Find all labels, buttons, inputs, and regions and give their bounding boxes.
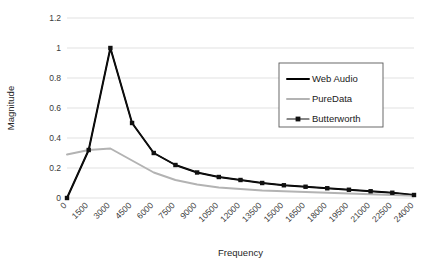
x-tick-label-12: 18000 — [305, 200, 329, 224]
y-tick-label-3: 0.6 — [49, 103, 61, 113]
series-marker-butterworth-16 — [412, 193, 416, 197]
x-tick-label-14: 21000 — [348, 200, 372, 224]
series-marker-butterworth-7 — [217, 175, 221, 179]
y-tick-label-6: 1.2 — [49, 13, 61, 23]
series-marker-butterworth-10 — [282, 183, 286, 187]
legend-label-web-audio[interactable]: Web Audio — [312, 73, 358, 84]
series-marker-butterworth-15 — [390, 191, 394, 195]
y-tick-label-1: 0.2 — [49, 163, 61, 173]
series-marker-butterworth-2 — [108, 46, 112, 50]
y-tick-label-5: 1 — [56, 43, 61, 53]
series-marker-butterworth-11 — [303, 185, 307, 189]
x-tick-label-1: 1500 — [70, 200, 91, 221]
x-tick-label-11: 16500 — [283, 200, 307, 224]
series-marker-butterworth-0 — [65, 196, 69, 200]
x-tick-label-9: 13500 — [240, 200, 264, 224]
series-marker-butterworth-9 — [260, 181, 264, 185]
series-marker-butterworth-13 — [347, 188, 351, 192]
series-marker-butterworth-6 — [195, 170, 199, 174]
x-axis-title: Frequency — [218, 247, 263, 258]
x-tick-label-13: 19500 — [327, 200, 351, 224]
x-tick-label-7: 10500 — [196, 200, 220, 224]
legend-label-puredata[interactable]: PureData — [312, 93, 353, 104]
x-tick-label-6: 9000 — [178, 200, 199, 221]
chart-container: 00.20.40.60.811.201500300045006000750090… — [0, 0, 426, 269]
y-axis-title: Magnitude — [5, 86, 16, 130]
series-line-puredata — [67, 149, 414, 196]
x-tick-label-16: 24000 — [392, 200, 416, 224]
x-tick-label-10: 15000 — [262, 200, 286, 224]
series-marker-butterworth-3 — [130, 121, 134, 125]
x-tick-label-15: 22500 — [370, 200, 394, 224]
x-tick-label-3: 4500 — [113, 200, 134, 221]
legend-label-butterworth[interactable]: Butterworth — [312, 113, 361, 124]
series-marker-butterworth-8 — [238, 178, 242, 182]
x-tick-label-0: 0 — [58, 200, 69, 211]
x-tick-label-2: 3000 — [91, 200, 112, 221]
line-chart: 00.20.40.60.811.201500300045006000750090… — [0, 0, 426, 269]
series-marker-butterworth-4 — [152, 151, 156, 155]
series-marker-butterworth-12 — [325, 186, 329, 190]
x-tick-label-4: 6000 — [135, 200, 156, 221]
y-tick-label-2: 0.4 — [49, 133, 61, 143]
series-marker-butterworth-14 — [368, 189, 372, 193]
x-tick-label-5: 7500 — [156, 200, 177, 221]
x-tick-label-8: 12000 — [218, 200, 242, 224]
series-marker-butterworth-1 — [86, 148, 90, 152]
series-marker-butterworth-5 — [173, 163, 177, 167]
legend-marker-butterworth — [296, 117, 301, 122]
y-tick-label-4: 0.8 — [49, 73, 61, 83]
